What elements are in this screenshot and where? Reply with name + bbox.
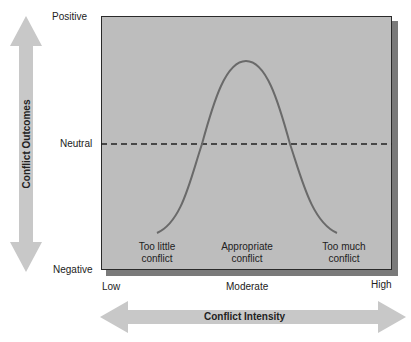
- bell-curve: [157, 61, 337, 233]
- annotation-too-much-line1: Too much: [304, 241, 384, 253]
- annotation-too-much-line2: conflict: [304, 253, 384, 265]
- x-label-moderate: Moderate: [226, 281, 268, 292]
- chart-curve: [0, 0, 411, 342]
- x-label-high: High: [371, 279, 392, 290]
- annotation-too-little-line1: Too little: [117, 241, 197, 253]
- annotation-appropriate-line2: conflict: [207, 253, 287, 265]
- annotation-appropriate: Appropriate conflict: [207, 241, 287, 265]
- annotation-too-little: Too little conflict: [117, 241, 197, 265]
- annotation-too-little-line2: conflict: [117, 253, 197, 265]
- x-axis-title: Conflict Intensity: [204, 311, 285, 322]
- annotation-too-much: Too much conflict: [304, 241, 384, 265]
- x-label-low: Low: [102, 281, 120, 292]
- annotation-appropriate-line1: Appropriate: [207, 241, 287, 253]
